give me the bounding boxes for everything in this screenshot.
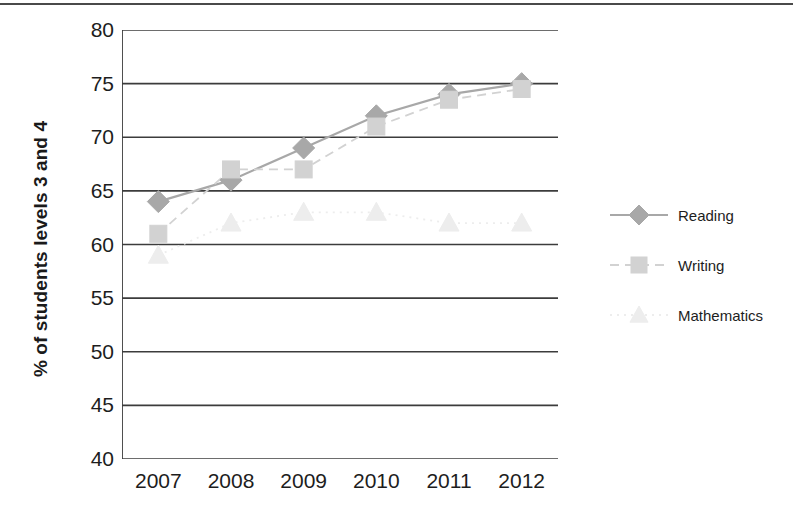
marker-mathematics-2012 — [512, 213, 532, 231]
legend-label: Mathematics — [670, 307, 763, 324]
chart-figure: % of students levels 3 and 4 80757065605… — [0, 0, 793, 509]
marker-mathematics-2007 — [148, 245, 168, 263]
y-tick-label-40: 40 — [62, 448, 114, 469]
gridlines — [122, 30, 558, 459]
y-tick-label-70: 70 — [62, 126, 114, 147]
x-tick-label-2011: 2011 — [409, 470, 489, 491]
legend-marker-diamond-icon — [608, 202, 670, 228]
legend-marker-triangle-icon — [608, 302, 670, 328]
marker-writing-2009 — [295, 161, 312, 178]
marker-mathematics-2008 — [221, 213, 241, 231]
marker-writing-2007 — [150, 225, 167, 242]
marker-writing-2008 — [223, 161, 240, 178]
legend-item-mathematics[interactable]: Mathematics — [608, 290, 788, 340]
legend-label: Reading — [670, 207, 734, 224]
y-tick-label-50: 50 — [62, 341, 114, 362]
y-tick-label-60: 60 — [62, 234, 114, 255]
x-axis-tick-labels: 200720082009201020112012 — [122, 470, 558, 500]
y-tick-label-45: 45 — [62, 394, 114, 415]
marker-reading-2007 — [147, 191, 169, 213]
series-line-reading — [158, 84, 521, 202]
marker-mathematics-2010 — [366, 202, 386, 220]
legend-item-writing[interactable]: Writing — [608, 240, 788, 290]
marker-mathematics-2011 — [439, 213, 459, 231]
y-tick-label-80: 80 — [62, 19, 114, 40]
plot-area — [122, 30, 558, 459]
y-tick-label-65: 65 — [62, 180, 114, 201]
x-tick-label-2012: 2012 — [482, 470, 562, 491]
marker-writing-2012 — [513, 80, 530, 97]
series-markers — [147, 73, 532, 264]
legend-label: Writing — [670, 257, 724, 274]
marker-writing-2011 — [441, 91, 458, 108]
marker-writing-2010 — [368, 118, 385, 135]
x-tick-label-2008: 2008 — [191, 470, 271, 491]
x-tick-label-2007: 2007 — [118, 470, 198, 491]
marker-mathematics-2009 — [294, 202, 314, 220]
y-tick-label-75: 75 — [62, 73, 114, 94]
y-axis-title: % of students levels 3 and 4 — [30, 104, 52, 394]
y-tick-label-55: 55 — [62, 287, 114, 308]
legend-marker-square-icon — [608, 252, 670, 278]
legend-item-reading[interactable]: Reading — [608, 190, 788, 240]
series-lines — [158, 84, 521, 256]
y-axis-tick-labels: 807570656055504540 — [58, 0, 114, 509]
x-tick-label-2010: 2010 — [336, 470, 416, 491]
chart-canvas — [122, 30, 558, 459]
marker-reading-2009 — [293, 137, 315, 159]
chart-legend: ReadingWritingMathematics — [608, 190, 788, 340]
series-line-mathematics — [158, 212, 521, 255]
x-tick-label-2009: 2009 — [264, 470, 344, 491]
